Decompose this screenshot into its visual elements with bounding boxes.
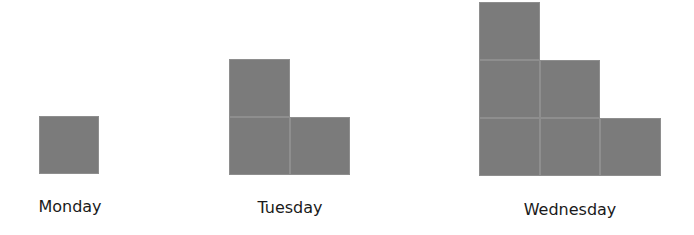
block-figure: Monday Tuesday Wednesday [0, 0, 694, 235]
unit-block-tuesday [290, 117, 351, 175]
unit-block-wednesday [600, 118, 661, 176]
unit-block-wednesday [479, 60, 540, 118]
unit-block-wednesday [479, 118, 540, 176]
label-wednesday: Wednesday [524, 200, 617, 219]
unit-block-wednesday [540, 118, 601, 176]
unit-block-monday [39, 116, 100, 174]
label-tuesday: Tuesday [257, 198, 322, 217]
unit-block-tuesday [229, 59, 290, 117]
unit-block-wednesday [540, 60, 601, 118]
unit-block-tuesday [229, 117, 290, 175]
label-monday: Monday [38, 197, 101, 216]
unit-block-wednesday [479, 2, 540, 60]
